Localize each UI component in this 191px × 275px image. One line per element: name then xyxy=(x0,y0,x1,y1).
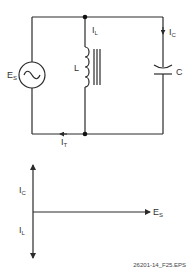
capacitor-current-label: IC xyxy=(169,27,177,38)
inductor-icon xyxy=(85,47,100,87)
total-current-label: IT xyxy=(61,137,68,148)
phasor-es-label: ES xyxy=(153,207,163,218)
phasor-axes xyxy=(33,165,150,258)
figure-caption-id: 26201-14_F25.EPS xyxy=(133,262,186,268)
junction-top xyxy=(83,15,88,20)
capacitor-label: C xyxy=(176,67,183,77)
diagram-canvas: ES L IL C IC IT IC IL ES 26201-14_F25.EP… xyxy=(0,0,191,275)
inductor-label: L xyxy=(74,63,79,73)
phasor-ic-label: IC xyxy=(19,185,27,196)
phasor-il-label: IL xyxy=(19,225,26,236)
junction-bottom xyxy=(83,132,88,137)
ac-source-icon xyxy=(19,62,45,88)
inductor-current-label: IL xyxy=(92,25,99,36)
source-label: ES xyxy=(7,70,17,81)
